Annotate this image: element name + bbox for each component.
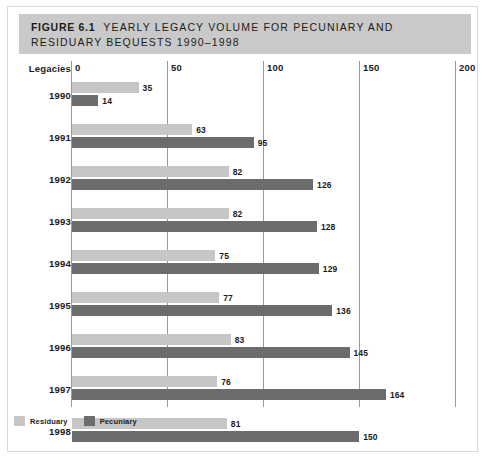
bar-value-pecuniary-1994: 129 — [323, 264, 337, 274]
bar-residuary-1990 — [72, 82, 139, 93]
bar-pecuniary-1992 — [72, 179, 314, 190]
legend-label-pecuniary: Pecuniary — [100, 417, 137, 426]
bar-value-residuary-1991: 63 — [196, 125, 206, 135]
bar-residuary-1992 — [72, 166, 229, 177]
x-tick-label-50: 50 — [171, 62, 182, 73]
year-label-1997: 1997 — [22, 384, 71, 395]
bar-value-residuary-1990: 35 — [143, 83, 153, 93]
bar-value-pecuniary-1997: 164 — [390, 390, 404, 400]
bar-value-pecuniary-1990: 14 — [102, 96, 112, 106]
bar-pecuniary-1994 — [72, 263, 319, 274]
x-tick-label-200: 200 — [459, 62, 475, 73]
bar-value-pecuniary-1992: 126 — [317, 180, 331, 190]
x-tick-label-0: 0 — [75, 62, 80, 73]
year-label-1992: 1992 — [22, 174, 71, 185]
bar-value-residuary-1993: 82 — [233, 209, 243, 219]
chart-plot-area: Legacies 0 50 100 150 200 1990 35 14 199… — [8, 7, 479, 453]
year-label-1996: 1996 — [22, 342, 71, 353]
bar-value-residuary-1992: 82 — [233, 167, 243, 177]
legend-swatch-residuary-icon — [14, 416, 25, 426]
bar-value-pecuniary-1991: 95 — [258, 138, 268, 148]
year-label-1994: 1994 — [22, 258, 71, 269]
bar-value-residuary-1996: 83 — [235, 335, 245, 345]
x-tick-label-150: 150 — [363, 62, 379, 73]
bar-value-pecuniary-1995: 136 — [336, 306, 350, 316]
gridline-200 — [455, 61, 456, 407]
bar-value-pecuniary-1993: 128 — [321, 222, 335, 232]
figure-frame: FIGURE 6.1 YEARLY LEGACY VOLUME FOR PECU… — [7, 6, 478, 452]
bar-pecuniary-1990 — [72, 95, 99, 106]
bar-residuary-1995 — [72, 292, 220, 303]
legend-item-pecuniary: Pecuniary — [84, 416, 137, 426]
bar-pecuniary-1998 — [72, 431, 360, 442]
bar-value-pecuniary-1998: 150 — [363, 432, 377, 442]
year-label-1991: 1991 — [22, 132, 71, 143]
legend-label-residuary: Residuary — [30, 417, 68, 426]
bar-residuary-1991 — [72, 124, 193, 135]
legend-item-residuary: Residuary — [14, 416, 68, 426]
year-label-1998: 1998 — [22, 426, 71, 437]
bar-value-pecuniary-1996: 145 — [354, 348, 368, 358]
bar-value-residuary-1994: 75 — [219, 251, 229, 261]
bar-residuary-1996 — [72, 334, 231, 345]
bar-pecuniary-1996 — [72, 347, 350, 358]
y-axis-title: Legacies — [22, 63, 71, 74]
bar-value-residuary-1995: 77 — [223, 293, 233, 303]
x-tick-label-100: 100 — [267, 62, 283, 73]
bar-pecuniary-1993 — [72, 221, 317, 232]
bar-pecuniary-1995 — [72, 305, 333, 316]
bar-value-residuary-1997: 76 — [221, 377, 231, 387]
legend-swatch-pecuniary-icon — [84, 416, 95, 426]
bar-pecuniary-1997 — [72, 389, 386, 400]
bar-residuary-1993 — [72, 208, 229, 219]
bar-pecuniary-1991 — [72, 137, 254, 148]
bar-residuary-1994 — [72, 250, 216, 261]
year-label-1995: 1995 — [22, 300, 71, 311]
chart-legend: Residuary Pecuniary — [14, 416, 137, 426]
year-label-1993: 1993 — [22, 216, 71, 227]
bar-value-residuary-1998: 81 — [231, 419, 241, 429]
bar-residuary-1997 — [72, 376, 218, 387]
year-label-1990: 1990 — [22, 90, 71, 101]
